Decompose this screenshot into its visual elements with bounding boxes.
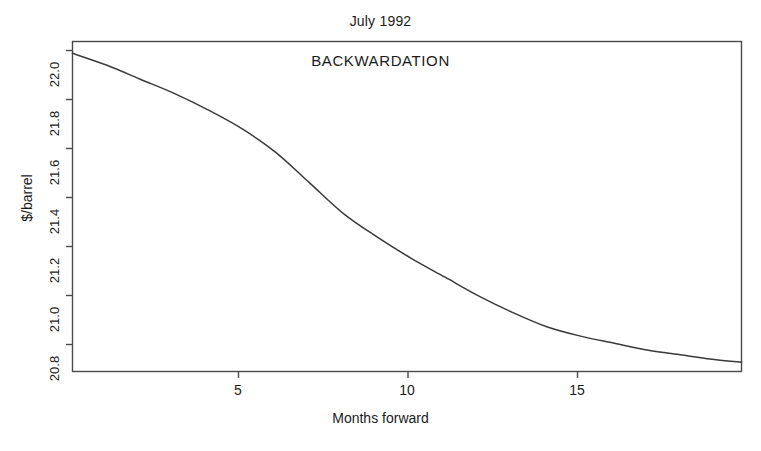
y-tick-label-2: 21.2 (47, 248, 62, 294)
x-tick-label-1: 10 (387, 382, 427, 398)
y-tick-label-1: 21.0 (47, 297, 62, 343)
x-tick-label-0: 5 (218, 382, 258, 398)
chart-annotation-backwardation: BACKWARDATION (0, 52, 761, 69)
y-axis-label: $/barrel (19, 138, 35, 258)
x-tick-label-2: 15 (557, 382, 597, 398)
y-tick-label-0: 20.8 (47, 346, 62, 392)
y-tick-label-5: 21.8 (47, 101, 62, 147)
plot-frame (73, 42, 742, 372)
y-tick-label-6: 22.0 (47, 52, 62, 98)
y-tick-label-3: 21.4 (47, 199, 62, 245)
y-axis-ticks (66, 51, 73, 345)
forward-price-curve (73, 53, 742, 362)
chart-title: July 1992 (0, 13, 761, 29)
chart-figure: July 1992 BACKWARDATION $/barrel Months … (0, 0, 761, 451)
x-axis-ticks (239, 372, 578, 379)
x-axis-label: Months forward (0, 410, 761, 426)
y-tick-label-4: 21.6 (47, 150, 62, 196)
